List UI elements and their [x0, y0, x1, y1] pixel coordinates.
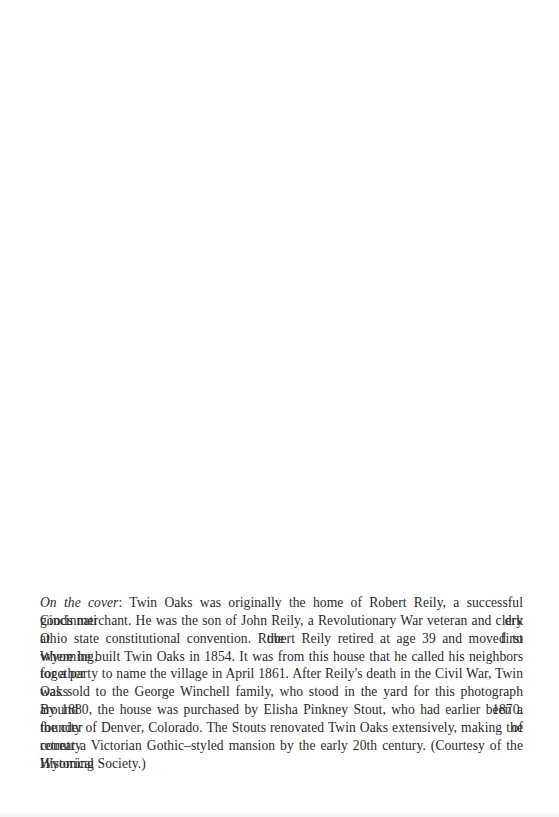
caption-line-4: where he built Twin Oaks in 1854. It was…	[40, 648, 523, 666]
caption-line-9: retreat a Victorian Gothic–styled mansio…	[40, 737, 523, 755]
caption-line-6: was sold to the George Winchell family, …	[40, 683, 523, 701]
caption-line-7: By 1880, the house was purchased by Elis…	[40, 701, 523, 719]
cover-caption: On the cover: Twin Oaks was originally t…	[40, 594, 523, 772]
caption-line-10: Historical Society.)	[40, 755, 523, 773]
caption-line-1: On the cover: Twin Oaks was originally t…	[40, 594, 523, 612]
caption-line-8: the city of Denver, Colorado. The Stouts…	[40, 719, 523, 737]
page-bottom-edge	[0, 811, 559, 817]
caption-line-2: goods merchant. He was the son of John R…	[40, 612, 523, 630]
caption-lead-italic: On the cover	[40, 595, 118, 610]
caption-line-3: Ohio state constitutional convention. Ro…	[40, 630, 523, 648]
book-page: On the cover: Twin Oaks was originally t…	[0, 0, 559, 817]
caption-line-5: for a party to name the village in April…	[40, 665, 523, 683]
